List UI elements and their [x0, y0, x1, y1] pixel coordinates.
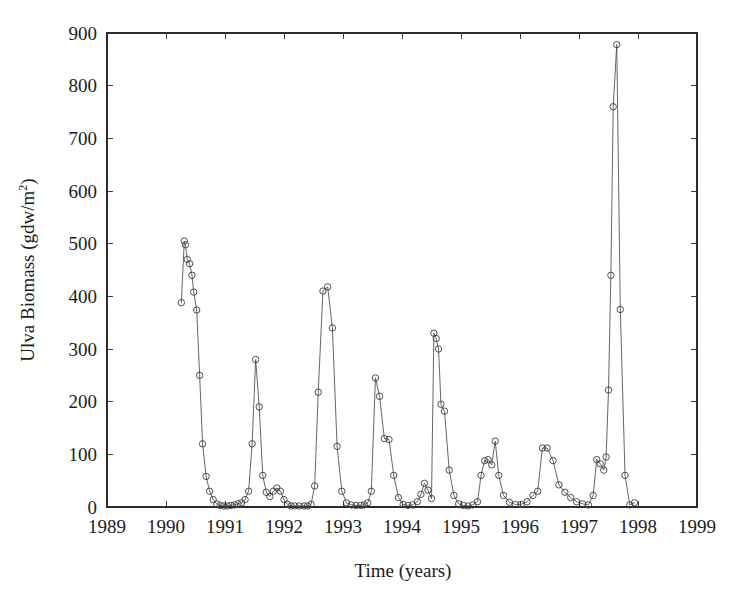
x-tick-label: 1990 [147, 516, 185, 537]
figure-background [0, 0, 749, 598]
x-tick-label: 1997 [560, 516, 598, 537]
y-tick-label: 800 [69, 75, 98, 96]
x-tick-label: 1999 [678, 516, 716, 537]
x-axis-title: Time (years) [355, 560, 452, 582]
x-tick-label: 1994 [383, 516, 422, 537]
y-tick-label: 0 [88, 497, 98, 518]
y-tick-label: 300 [69, 339, 98, 360]
y-tick-label: 400 [69, 286, 98, 307]
y-axis-title: Ulva Biomass (gdw/m2) [16, 178, 39, 361]
x-tick-label: 1993 [324, 516, 362, 537]
x-tick-label: 1996 [501, 516, 539, 537]
y-tick-label: 600 [69, 181, 98, 202]
y-tick-label: 200 [69, 391, 98, 412]
x-tick-label: 1992 [265, 516, 303, 537]
y-tick-label: 900 [69, 23, 98, 44]
ulva-biomass-chart: 1989199019911992199319941995199619971998… [0, 0, 749, 598]
y-tick-label: 700 [69, 128, 98, 149]
y-tick-label: 500 [69, 233, 98, 254]
x-tick-label: 1995 [442, 516, 480, 537]
x-tick-label: 1989 [88, 516, 126, 537]
x-tick-label: 1991 [206, 516, 244, 537]
x-tick-label: 1998 [619, 516, 657, 537]
y-tick-label: 100 [69, 444, 98, 465]
